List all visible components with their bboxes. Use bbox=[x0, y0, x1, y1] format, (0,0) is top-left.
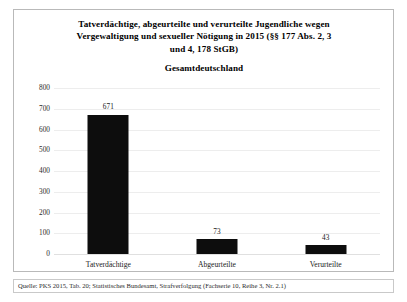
bar-group: 671Tatverdächtige bbox=[54, 88, 163, 254]
bar[interactable] bbox=[196, 239, 237, 254]
x-axis-category-label: Verurteilte bbox=[310, 261, 342, 269]
chart-figure: Tatverdächtige, abgeurteilte und verurte… bbox=[13, 9, 394, 272]
chart-title-line-1: Tatverdächtige, abgeurteilte und verurte… bbox=[28, 18, 380, 30]
y-axis-tick-label: 800 bbox=[39, 84, 50, 91]
y-axis-tick-label: 100 bbox=[39, 230, 50, 237]
y-axis-tick-label: 500 bbox=[39, 147, 50, 154]
x-axis-category-label: Tatverdächtige bbox=[86, 261, 131, 269]
bar[interactable] bbox=[88, 115, 129, 254]
plot-area: 0100200300400500600700800 671Tatverdächt… bbox=[54, 88, 380, 254]
bar[interactable] bbox=[305, 245, 346, 254]
y-axis-tick-label: 300 bbox=[39, 188, 50, 195]
bar-series: 671Tatverdächtige73Abgeurteilte43Verurte… bbox=[54, 88, 380, 254]
source-note-text: Quelle: PKS 2015, Tab. 20; Statistisches… bbox=[14, 283, 286, 290]
bar-value-label: 73 bbox=[213, 228, 220, 235]
bar-group: 73Abgeurteilte bbox=[163, 88, 272, 254]
x-axis-category-label: Abgeurteilte bbox=[198, 261, 236, 269]
y-axis-tick-label: 0 bbox=[46, 250, 50, 257]
chart-title-line-2: Vergewaltigung und sexueller Nötigung in… bbox=[28, 30, 380, 42]
bar-value-label: 43 bbox=[322, 234, 329, 241]
y-axis-tick-label: 700 bbox=[39, 105, 50, 112]
gridline bbox=[54, 254, 380, 255]
bar-value-label: 671 bbox=[103, 103, 114, 110]
bar-group: 43Verurteilte bbox=[271, 88, 380, 254]
chart-title: Tatverdächtige, abgeurteilte und verurte… bbox=[28, 18, 380, 55]
y-axis-tick-label: 400 bbox=[39, 167, 50, 174]
y-axis-tick-label: 200 bbox=[39, 209, 50, 216]
chart-subtitle: Gesamtdeutschland bbox=[28, 63, 380, 73]
source-note: Quelle: PKS 2015, Tab. 20; Statistisches… bbox=[13, 279, 394, 293]
y-axis-tick-label: 600 bbox=[39, 126, 50, 133]
chart-title-line-3: und 4, 178 StGB) bbox=[28, 43, 380, 55]
